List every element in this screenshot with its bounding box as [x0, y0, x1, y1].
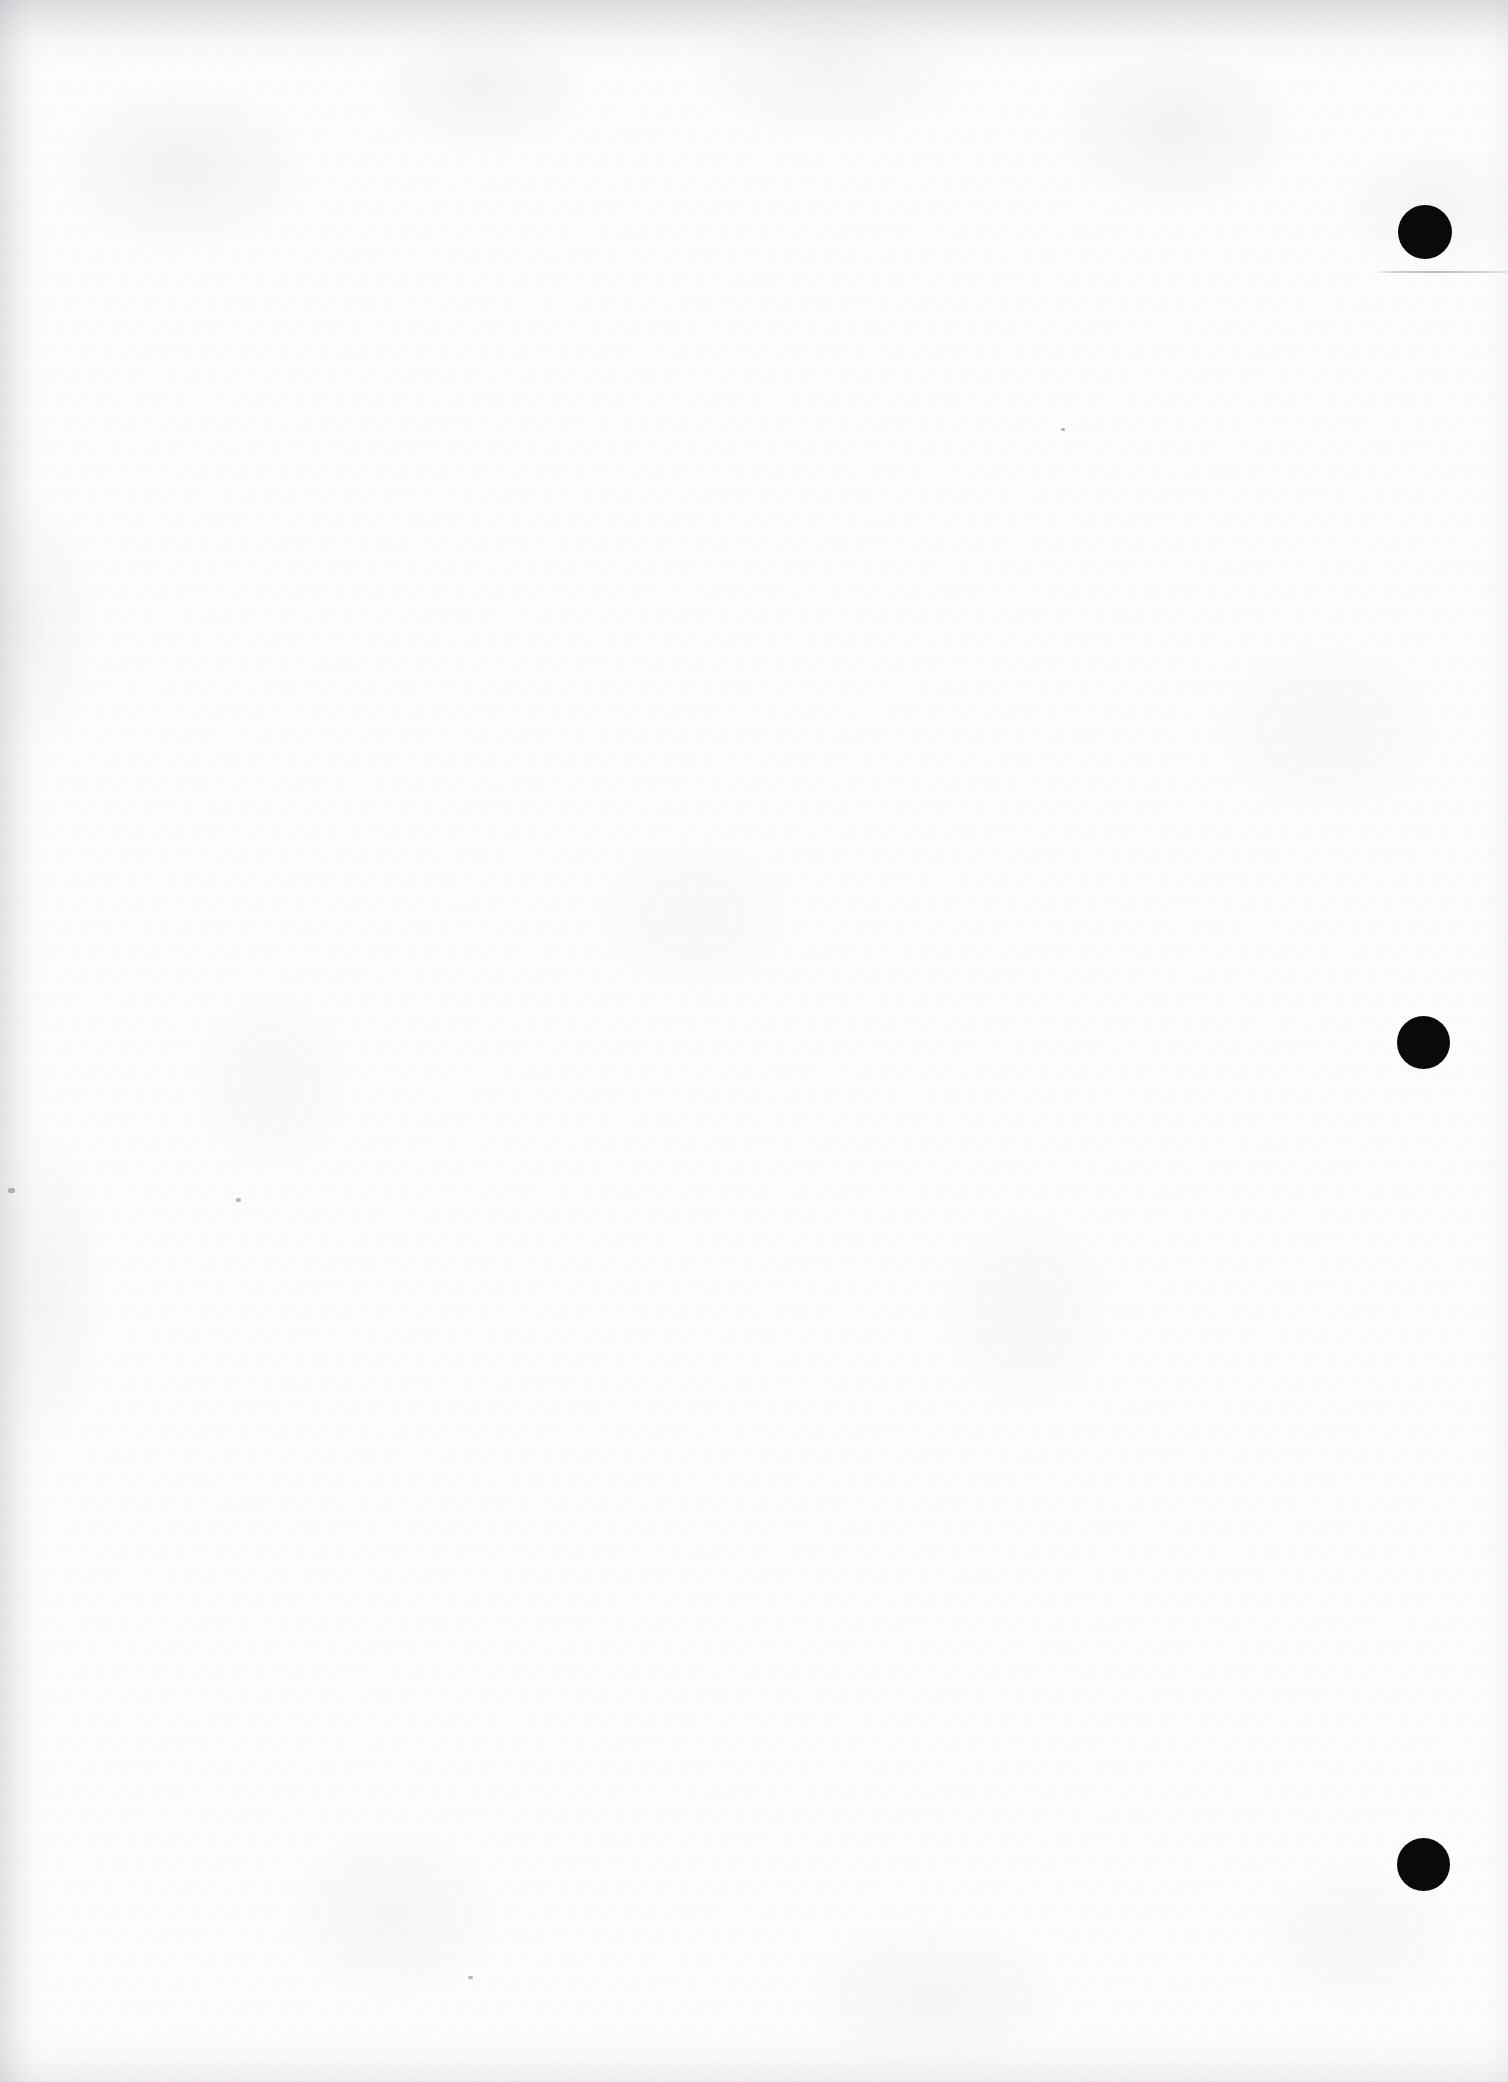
margin-mark-3 — [1397, 1838, 1450, 1891]
scan-speck — [468, 1976, 473, 1979]
page-body-text — [120, 120, 1300, 1920]
margin-rule-1 — [1375, 271, 1508, 273]
scan-speck — [8, 1188, 15, 1193]
scan-speck — [1061, 428, 1065, 431]
margin-mark-1 — [1398, 205, 1452, 259]
margin-mark-2 — [1397, 1016, 1450, 1069]
scanned-page — [0, 0, 1508, 2082]
scan-speck — [236, 1198, 241, 1202]
